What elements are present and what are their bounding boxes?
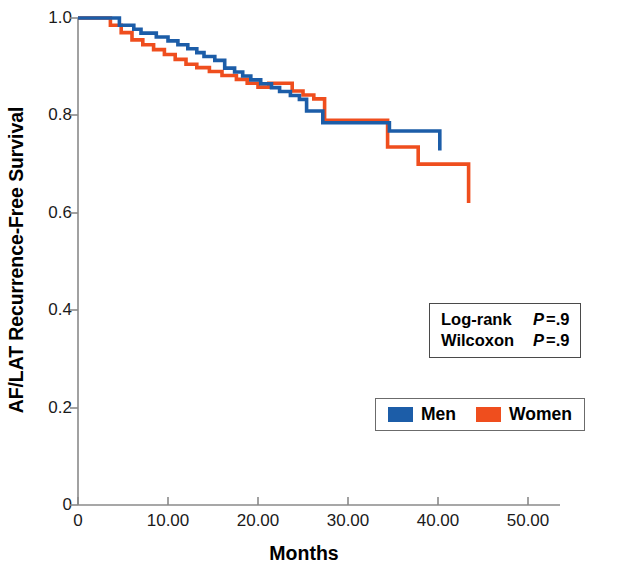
x-axis-title: Months — [78, 542, 530, 565]
stat-test-name: Wilcoxon — [441, 330, 533, 351]
stat-test-name: Log-rank — [441, 309, 533, 330]
legend-entry-women: Women — [476, 405, 572, 423]
p-value: =.9 — [546, 330, 569, 351]
x-tick-marks — [78, 497, 528, 505]
p-symbol: P — [533, 309, 544, 330]
axis-lines — [78, 18, 560, 505]
plot-area — [0, 0, 642, 578]
legend-swatch-icon — [476, 407, 501, 422]
p-symbol: P — [533, 330, 544, 351]
stat-row-logrank: Log-rank P =.9 — [441, 309, 569, 330]
stat-row-wilcoxon: Wilcoxon P =.9 — [441, 330, 569, 351]
survival-curve-women — [78, 18, 469, 203]
p-value: =.9 — [546, 309, 569, 330]
survival-chart-figure: AF/LAT Recurrence-Free Survival 1.0 0.8 … — [0, 0, 642, 578]
legend-entry-men: Men — [388, 405, 456, 423]
legend: Men Women — [375, 398, 585, 431]
legend-label-women: Women — [509, 405, 572, 423]
y-tick-marks — [70, 18, 78, 505]
legend-label-men: Men — [421, 405, 456, 423]
statistics-box: Log-rank P =.9 Wilcoxon P =.9 — [429, 303, 581, 358]
legend-swatch-icon — [388, 407, 413, 422]
